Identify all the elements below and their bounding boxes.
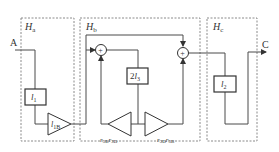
element-l1: l1 [25, 89, 46, 105]
svg-text:+: + [98, 46, 103, 55]
block-hc-label: Hc [212, 21, 223, 34]
output-label: C [262, 39, 269, 50]
amplifier-l1b: l1B [48, 113, 71, 135]
block-diagram: Ha Hb Hc A l1 l1B + [0, 0, 279, 152]
svg-text:r3Br3D: r3Br3D [100, 136, 118, 144]
amplifier-r3b-r3d: r3Br3D [100, 112, 131, 144]
summing-junction-left: + [96, 45, 107, 56]
svg-text:r3Dr3B: r3Dr3B [157, 136, 175, 144]
svg-text:+: + [180, 49, 185, 58]
input-label: A [10, 37, 18, 48]
summing-junction-right: + [178, 48, 189, 59]
amplifier-r3d-r3b: r3Dr3B [145, 112, 175, 144]
element-2l3: 2l3 [127, 68, 148, 84]
block-hb-label: Hb [85, 21, 97, 34]
element-l2: l2 [214, 76, 236, 92]
block-ha-label: Ha [24, 21, 36, 34]
